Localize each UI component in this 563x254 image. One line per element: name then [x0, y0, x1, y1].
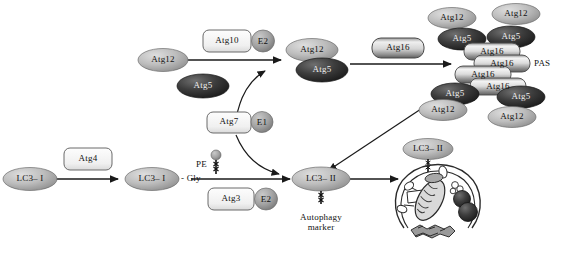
label-atg7: Atg7: [207, 116, 251, 126]
label-atg16-free: Atg16: [372, 42, 424, 52]
label-atg10: Atg10: [203, 35, 251, 45]
label-pas-atg12-upper-left: Atg12: [427, 12, 477, 22]
label-atg5-free: Atg5: [178, 80, 228, 90]
label-atg12-conjugate: Atg12: [287, 44, 337, 54]
label-pas-atg16-2: Atg16: [474, 58, 530, 68]
label-pas-atg12-upper-right: Atg12: [491, 8, 541, 18]
label-lc3-ii-membrane: LC3– II: [402, 143, 454, 153]
label-pas-atg12-lower-right: Atg12: [487, 111, 537, 121]
pe-lipid-icon: [211, 150, 221, 174]
label-pas-atg12-lower-left: Atg12: [418, 104, 468, 114]
label-lc3-ii: LC3– II: [294, 173, 348, 183]
label-pas-atg5-upper-left: Atg5: [438, 33, 486, 43]
label-pe: PE: [196, 159, 207, 169]
autophagy-pathway-diagram: Atg12 Atg5 Atg10 E2 Atg7 E1 Atg12 Atg5 A…: [0, 0, 563, 254]
label-atg3: Atg3: [208, 193, 254, 203]
label-atg4: Atg4: [64, 153, 112, 163]
arrow-atg7-to-lc3ii: [236, 135, 279, 174]
label-pas-atg5-lower-left: Atg5: [431, 88, 479, 98]
autophagosome-illustration: [395, 139, 480, 239]
label-e1: E1: [251, 117, 273, 127]
label-pas: PAS: [534, 58, 550, 68]
label-pas-atg16-1: Atg16: [464, 46, 520, 56]
label-pas-atg16-3: Atg16: [455, 69, 511, 79]
label-autophagy-marker-line2: marker: [286, 222, 356, 232]
label-e2-top: E2: [251, 36, 275, 46]
label-lc3-i: LC3– I: [5, 173, 55, 183]
label-lc3-i-gly: LC3– I: [127, 173, 177, 183]
arrow-pas-to-lc3ii: [329, 103, 430, 170]
label-pas-atg5-lower-right: Atg5: [497, 91, 545, 101]
label-atg12-free: Atg12: [138, 54, 188, 64]
label-atg5-conjugate: Atg5: [297, 64, 347, 74]
label-e2-bottom: E2: [254, 194, 278, 204]
label-pas-atg5-upper-right: Atg5: [487, 31, 535, 41]
label-gly: - Gly: [181, 173, 201, 183]
label-autophagy-marker-line1: Autophagy: [286, 212, 356, 222]
